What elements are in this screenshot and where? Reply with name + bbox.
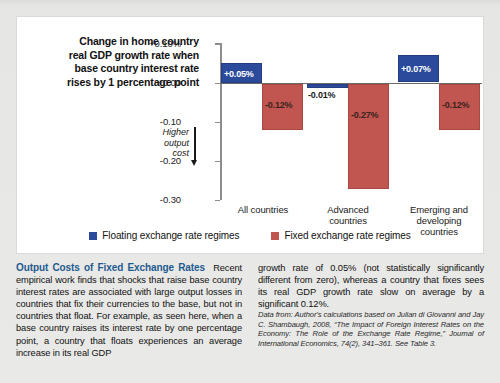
bar-floating-advanced-countries[interactable] <box>307 84 348 89</box>
bar-label-fixed-advanced-countries: -0.27% <box>351 110 378 120</box>
caption-left-body: Recent empirical work finds that shocks … <box>16 263 242 358</box>
category-label-advanced-countries: Advanced countries <box>307 204 389 226</box>
caption-column-left: Output Costs of Fixed Exchange Rates Rec… <box>16 262 242 377</box>
caption-heading: Output Costs of Fixed Exchange Rates <box>16 262 205 273</box>
y-tick-mark-0 <box>215 43 220 45</box>
y-tick-label-3: -0.20 <box>160 155 181 166</box>
figure-panel: Change in home country real GDP growth r… <box>16 16 484 254</box>
category-label-advanced-line-2: countries <box>329 215 367 226</box>
bar-label-floating-emerging-countries: +0.07% <box>401 64 431 74</box>
y-tick-label-2: -0.10 <box>160 116 181 127</box>
bar-label-floating-advanced-countries: -0.01% <box>308 90 335 100</box>
y-tick-label-1: +0.00 <box>157 77 181 88</box>
y-tick-label-0: +0.10% <box>149 38 181 49</box>
chart-legend: Floating exchange rate regimes Fixed exc… <box>17 230 483 241</box>
y-tick-mark-2 <box>215 122 220 124</box>
legend-swatch-fixed-icon <box>271 232 279 240</box>
legend-swatch-floating-icon <box>89 232 97 240</box>
legend-item-fixed[interactable]: Fixed exchange rate regimes <box>271 230 410 241</box>
chart-title-line-3: base country interest rate <box>75 62 199 74</box>
figure-caption: Output Costs of Fixed Exchange Rates Rec… <box>16 262 484 377</box>
caption-right-paragraph: growth rate of 0.05% (not statistically … <box>258 262 484 310</box>
y-tick-mark-1 <box>215 83 220 85</box>
legend-label-fixed: Fixed exchange rate regimes <box>284 230 410 241</box>
legend-label-floating: Floating exchange rate regimes <box>102 230 239 241</box>
caption-column-right: growth rate of 0.05% (not statistically … <box>258 262 484 377</box>
bar-label-fixed-all-countries: -0.12% <box>265 100 292 110</box>
category-label-advanced-line-1: Advanced <box>327 204 368 215</box>
bar-chart: Change in home country real GDP growth r… <box>17 17 483 253</box>
chart-title-line-1: Change in home country <box>79 35 199 47</box>
category-label-emerging-line-1: Emerging and <box>410 204 468 215</box>
y-tick-mark-4 <box>215 200 220 202</box>
higher-output-cost-annotation: Higher output cost <box>127 127 189 159</box>
bar-fixed-advanced-countries[interactable] <box>348 84 389 189</box>
bar-label-fixed-emerging-countries: -0.12% <box>442 100 469 110</box>
annotation-line-2: output <box>164 138 189 148</box>
category-label-emerging-line-2: developing <box>417 215 462 226</box>
downward-arrow-icon <box>194 127 196 161</box>
annotation-line-1: Higher <box>162 127 189 137</box>
caption-source-note: Data from: Author's calculations based o… <box>258 310 484 348</box>
caption-left-paragraph: Output Costs of Fixed Exchange Rates Rec… <box>16 262 242 359</box>
category-label-all-countries: All countries <box>222 204 304 215</box>
page-background: Change in home country real GDP growth r… <box>0 0 500 383</box>
y-tick-mark-3 <box>215 161 220 163</box>
bar-label-floating-all-countries: +0.05% <box>224 69 254 79</box>
chart-title-line-2: real GDP growth rate when <box>69 49 199 61</box>
y-tick-label-4: -0.30 <box>160 194 181 205</box>
legend-item-floating[interactable]: Floating exchange rate regimes <box>89 230 239 241</box>
